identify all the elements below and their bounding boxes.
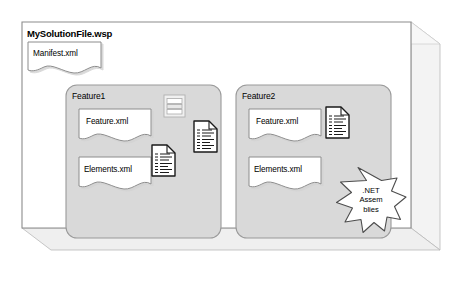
group-label-feature2: Feature2 <box>242 92 275 101</box>
resource-grid-icon[interactable] <box>164 95 185 117</box>
outer-box-depth-right <box>411 22 440 250</box>
burst-line-2: Assem <box>350 195 392 204</box>
page-title: MySolutionFile.wsp <box>27 29 112 39</box>
xml-document-icon-feature1-a[interactable] <box>194 121 217 152</box>
burst-line-3: blies <box>350 205 392 214</box>
dotnet-assemblies-label: .NET Assem blies <box>350 186 392 214</box>
burst-line-1: .NET <box>350 186 392 195</box>
diagram-vector-layer <box>0 0 458 287</box>
outer-box-corner-fold <box>411 22 440 44</box>
document-label-feature2-feature-xml: Feature.xml <box>256 118 298 126</box>
xml-document-icon-feature2[interactable] <box>326 107 349 138</box>
xml-document-icon-feature1-b[interactable] <box>152 145 175 176</box>
group-label-feature1: Feature1 <box>72 92 105 101</box>
document-label-feature1-elements-xml: Elements.xml <box>84 166 132 174</box>
document-label-feature1-feature-xml: Feature.xml <box>86 118 128 126</box>
diagram-canvas: MySolutionFile.wsp Manifest.xml Feature1… <box>0 0 458 287</box>
document-label-feature2-elements-xml: Elements.xml <box>254 166 302 174</box>
document-label-manifest-xml: Manifest.xml <box>33 50 78 58</box>
